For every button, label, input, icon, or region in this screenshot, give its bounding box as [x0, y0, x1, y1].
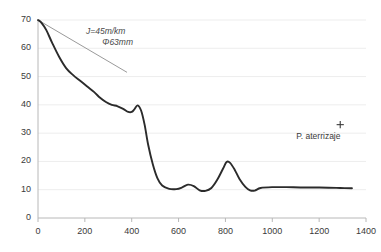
- y-tick-label-10: 10: [7, 184, 31, 194]
- x-tick-label-400: 400: [112, 226, 152, 236]
- y-tick-label-40: 40: [7, 99, 31, 109]
- y-tick-label-30: 30: [7, 127, 31, 137]
- x-tick-label-1400: 1400: [346, 226, 381, 236]
- x-tick-label-0: 0: [18, 226, 58, 236]
- y-tick-label-20: 20: [7, 155, 31, 165]
- y-tick-label-60: 60: [7, 42, 31, 52]
- y-tick-label-50: 50: [7, 71, 31, 81]
- x-tick-marks-group: [38, 218, 366, 222]
- y-tick-label-70: 70: [7, 14, 31, 24]
- point-markers-group: [337, 121, 344, 128]
- x-tick-label-1000: 1000: [252, 226, 292, 236]
- x-tick-label-200: 200: [65, 226, 105, 236]
- x-tick-label-600: 600: [159, 226, 199, 236]
- x-tick-label-800: 800: [205, 226, 245, 236]
- x-tick-label-1200: 1200: [299, 226, 339, 236]
- landing-point-label: P. aterrizaje: [296, 131, 340, 141]
- y-tick-label-0: 0: [7, 212, 31, 222]
- gradient-annotation-line1: J=45m/km: [86, 26, 125, 36]
- gradient-annotation-line2: Φ63mm: [86, 37, 133, 47]
